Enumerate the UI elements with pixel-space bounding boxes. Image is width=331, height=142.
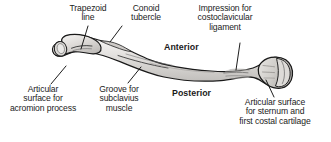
label-impression-costoclavicular-ligament: Impression for costoclavicular ligament [184, 4, 266, 32]
costoclavicular-impression [224, 68, 252, 79]
label-conoid-tubercle: Conoid tubercle [118, 4, 174, 23]
clavicle-anatomy-figure: Trapezoid line Conoid tubercle Impressio… [0, 0, 331, 142]
label-articular-surface-sternum-first-costal-cartilage: Articular surface for sternum and first … [222, 98, 328, 126]
leader-lines [51, 26, 274, 97]
label-articular-surface-acromion-process: Articular surface for acromion process [2, 85, 84, 113]
label-groove-for-subclavius-muscle: Groove for subclavius muscle [88, 85, 150, 113]
conoid-tubercle-leader [110, 26, 122, 42]
impression-leader [236, 43, 240, 70]
label-posterior: Posterior [172, 89, 224, 98]
label-trapezoid-line: Trapezoid line [57, 4, 119, 23]
groove-subclavius-leader [128, 67, 141, 83]
articular-acromion-leader [51, 66, 66, 84]
label-anterior: Anterior [164, 43, 214, 52]
